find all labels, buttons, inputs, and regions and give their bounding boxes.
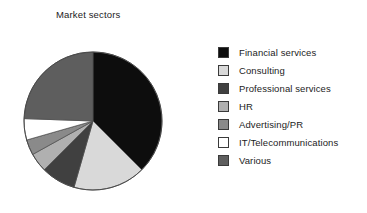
legend-item[interactable]: HR — [218, 97, 364, 115]
legend-swatch-icon — [218, 119, 229, 130]
legend-item-label: Consulting — [239, 65, 285, 76]
legend-swatch-icon — [218, 65, 229, 76]
legend-item[interactable]: IT/Telecommunications — [218, 133, 364, 151]
legend-item[interactable]: Various — [218, 151, 364, 169]
legend-swatch-icon — [218, 155, 229, 166]
legend-item-label: Financial services — [239, 47, 316, 58]
legend-item[interactable]: Consulting — [218, 61, 364, 79]
legend-item-label: IT/Telecommunications — [239, 137, 338, 148]
legend-item-label: Various — [239, 155, 271, 166]
legend-item-label: Advertising/PR — [239, 119, 303, 130]
legend-swatch-icon — [218, 101, 229, 112]
legend-swatch-icon — [218, 83, 229, 94]
chart-legend: Financial servicesConsultingProfessional… — [218, 43, 364, 169]
pie-slice[interactable] — [24, 52, 93, 121]
pie-svg — [22, 50, 164, 192]
legend-item[interactable]: Advertising/PR — [218, 115, 364, 133]
legend-item-label: HR — [239, 101, 253, 112]
legend-item[interactable]: Financial services — [218, 43, 364, 61]
legend-swatch-icon — [218, 47, 229, 58]
legend-swatch-icon — [218, 137, 229, 148]
legend-item[interactable]: Professional services — [218, 79, 364, 97]
pie-chart-figure: Market sectors Financial servicesConsult… — [0, 0, 367, 213]
chart-title: Market sectors — [56, 9, 120, 20]
legend-item-label: Professional services — [239, 83, 331, 94]
pie-slice-group — [24, 52, 162, 190]
pie-plot-area — [22, 50, 164, 192]
